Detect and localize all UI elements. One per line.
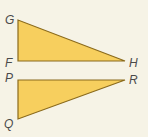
vertex-label-g: G <box>5 13 14 27</box>
triangle-fgh <box>18 20 125 61</box>
vertex-label-f: F <box>5 56 13 70</box>
vertex-label-p: P <box>5 71 13 85</box>
vertex-label-h: H <box>129 56 138 70</box>
diagram-canvas: G F H P R Q <box>0 0 148 137</box>
vertex-label-r: R <box>129 73 138 87</box>
triangle-pqr <box>18 80 125 119</box>
vertex-label-q: Q <box>4 117 13 131</box>
